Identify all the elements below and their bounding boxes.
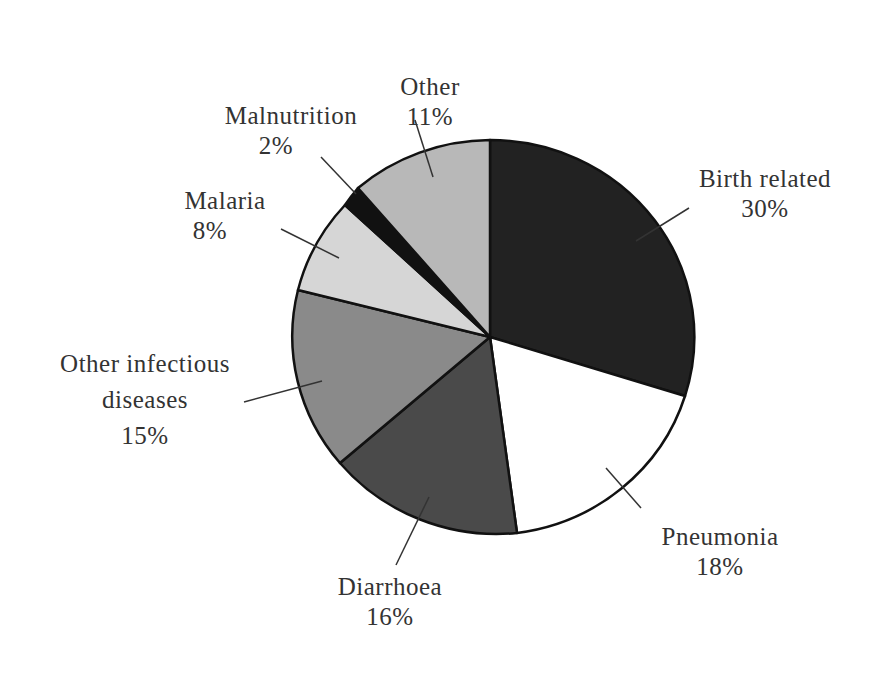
- label-malaria-name: Malaria: [160, 186, 290, 216]
- label-other-infectious-line1: Other infectious: [10, 346, 280, 382]
- label-pneumonia: Pneumonia 18%: [620, 522, 820, 582]
- label-birth-related-pct: 30%: [660, 194, 870, 224]
- label-other-infectious: Other infectious diseases 15%: [10, 346, 280, 454]
- label-diarrhoea-name: Diarrhoea: [300, 572, 480, 602]
- label-diarrhoea: Diarrhoea 16%: [300, 572, 480, 632]
- label-malaria-pct: 8%: [130, 216, 290, 246]
- label-other-infectious-line2: diseases: [10, 382, 280, 418]
- label-pneumonia-pct: 18%: [620, 552, 820, 582]
- label-pneumonia-name: Pneumonia: [620, 522, 820, 552]
- label-birth-related-name: Birth related: [660, 164, 870, 194]
- leader-malnutrition: [321, 157, 356, 194]
- label-birth-related: Birth related 30%: [660, 164, 870, 224]
- label-other-pct: 11%: [370, 102, 490, 132]
- label-other-infectious-pct: 15%: [10, 418, 280, 454]
- label-diarrhoea-pct: 16%: [300, 602, 480, 632]
- label-malnutrition: Malnutrition 2%: [206, 101, 376, 161]
- label-other-name: Other: [370, 72, 490, 102]
- label-malnutrition-pct: 2%: [176, 131, 376, 161]
- label-malaria: Malaria 8%: [160, 186, 290, 246]
- label-malnutrition-name: Malnutrition: [206, 101, 376, 131]
- label-other: Other 11%: [370, 72, 490, 132]
